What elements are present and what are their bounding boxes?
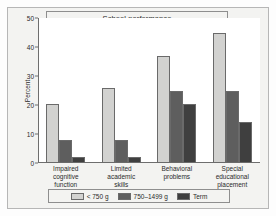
- x-tick-label-line: skills: [90, 181, 152, 189]
- bar: [128, 157, 141, 163]
- bar: [226, 91, 239, 164]
- chart-screenshot: School performance Percent 01020304050 I…: [0, 0, 276, 216]
- x-tick-label-line: educational: [201, 173, 263, 181]
- bar: [183, 104, 196, 163]
- x-tick-label-line: Impaired: [35, 165, 97, 173]
- x-tick-label-line: placement: [201, 181, 263, 189]
- x-tick-label: Specialeducationalplacement: [201, 165, 263, 189]
- x-tick-label: Impairedcognitivefunction: [35, 165, 97, 189]
- bar: [157, 56, 170, 163]
- x-tick-label-line: Limited: [90, 165, 152, 173]
- bar: [115, 140, 128, 163]
- figure-frame: School performance Percent 01020304050 I…: [7, 7, 269, 209]
- bar: [59, 140, 72, 163]
- x-tick-label: Behavioralproblems: [146, 165, 208, 181]
- bar: [46, 104, 59, 163]
- legend-item[interactable]: 750–1499 g: [118, 193, 168, 200]
- x-tick-label-line: function: [35, 181, 97, 189]
- legend-swatch: [71, 193, 84, 200]
- legend-item[interactable]: < 750 g: [71, 193, 109, 200]
- x-tick-label-line: Behavioral: [146, 165, 208, 173]
- bar: [213, 33, 226, 164]
- legend-label: Term: [193, 193, 207, 200]
- bar-group: [38, 18, 94, 163]
- bar-group: [149, 18, 205, 163]
- x-tick-label-line: Special: [201, 165, 263, 173]
- bar: [170, 91, 183, 164]
- x-tick-label: Limitedacademicskills: [90, 165, 152, 189]
- x-tick-label-line: academic: [90, 173, 152, 181]
- legend-label: 750–1499 g: [134, 193, 168, 200]
- bar-group: [205, 18, 261, 163]
- y-axis-label: Percent: [24, 79, 31, 101]
- legend-item[interactable]: Term: [177, 193, 207, 200]
- legend-label: < 750 g: [87, 193, 109, 200]
- x-tick-label-line: cognitive: [35, 173, 97, 181]
- legend-swatch: [177, 193, 190, 200]
- chart-legend: < 750 g750–1499 gTerm: [48, 189, 230, 203]
- legend-swatch: [118, 193, 131, 200]
- plot-area-wrapper: Percent 01020304050 Impairedcognitivefun…: [38, 18, 260, 163]
- bar: [102, 88, 115, 163]
- bar: [72, 157, 85, 163]
- bar-group: [94, 18, 150, 163]
- bar: [239, 122, 252, 163]
- x-tick-label-line: problems: [146, 173, 208, 181]
